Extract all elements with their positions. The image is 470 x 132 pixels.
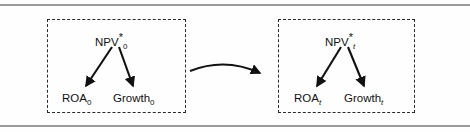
node-growth-time-0-text: Growth [113, 92, 150, 104]
node-npv-time-t-subscript: t [353, 42, 355, 51]
node-npv-time-0-subscript: 0 [123, 42, 127, 51]
node-roa-time-0-subscript: 0 [87, 98, 91, 107]
node-roa-time-0-text: ROA [62, 92, 87, 104]
node-growth-time-t-subscript: t [381, 98, 383, 107]
node-npv-time-0-text: NPV [95, 36, 119, 48]
top-horizontal-rule [0, 4, 470, 6]
bottom-horizontal-rule [0, 125, 470, 127]
node-roa-time-0: ROA0 [62, 93, 91, 107]
node-growth-time-t-text: Growth [344, 92, 381, 104]
node-npv-time-0: NPV*0 [95, 32, 127, 51]
node-growth-time-t: Growtht [344, 93, 383, 107]
node-growth-time-0-subscript: 0 [150, 98, 154, 107]
figure-canvas: NPV*0 ROA0 Growth0 NPV*t ROAt Growtht [0, 0, 470, 132]
node-roa-time-t: ROAt [294, 93, 321, 107]
curved-transition-arrow [190, 64, 260, 73]
node-roa-time-t-text: ROA [294, 92, 319, 104]
node-npv-time-t: NPV*t [325, 32, 355, 51]
node-growth-time-0: Growth0 [113, 93, 155, 107]
node-npv-time-t-text: NPV [325, 36, 349, 48]
node-roa-time-t-subscript: t [319, 98, 321, 107]
